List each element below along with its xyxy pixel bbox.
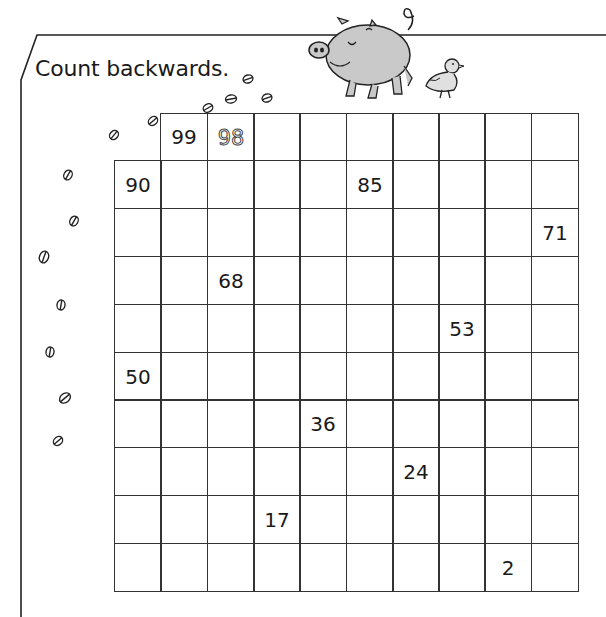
grid-cell[interactable]: [438, 160, 486, 209]
grid-cell[interactable]: [299, 495, 347, 544]
grid-cell[interactable]: [299, 113, 347, 161]
grid-cell[interactable]: [438, 495, 486, 544]
grid-cell[interactable]: [160, 304, 208, 353]
grid-cell[interactable]: [392, 399, 440, 448]
grid-cell[interactable]: 53: [438, 304, 486, 353]
grid-cell[interactable]: [160, 208, 208, 257]
grid-cell[interactable]: [207, 495, 255, 544]
grid-cell[interactable]: [438, 543, 486, 592]
grid-cell[interactable]: [484, 304, 532, 353]
grid-cell[interactable]: 17: [253, 495, 301, 544]
grid-cell[interactable]: 68: [207, 256, 255, 305]
grid-cell[interactable]: [253, 352, 301, 401]
grid-cell[interactable]: [392, 208, 440, 257]
grid-cell[interactable]: [392, 304, 440, 353]
grid-cell[interactable]: [114, 447, 162, 496]
grid-cell[interactable]: [299, 447, 347, 496]
grid-cell[interactable]: [160, 160, 208, 209]
grid-cell[interactable]: [160, 447, 208, 496]
grid-cell[interactable]: [346, 495, 394, 544]
grid-cell[interactable]: [392, 256, 440, 305]
grid-cell[interactable]: [114, 399, 162, 448]
grid-cell[interactable]: [531, 352, 579, 401]
grid-cell[interactable]: [392, 495, 440, 544]
grid-cell[interactable]: [531, 447, 579, 496]
grid-cell[interactable]: [114, 304, 162, 353]
grid-cell[interactable]: [392, 543, 440, 592]
grid-cell[interactable]: [299, 256, 347, 305]
grid-cell[interactable]: [299, 352, 347, 401]
grid-cell[interactable]: [484, 447, 532, 496]
grid-cell[interactable]: [160, 399, 208, 448]
grid-cell[interactable]: [114, 495, 162, 544]
grid-cell[interactable]: [114, 256, 162, 305]
grid-cell[interactable]: 50: [114, 352, 162, 401]
grid-cell[interactable]: 2: [484, 543, 532, 592]
grid-cell[interactable]: [160, 495, 208, 544]
grid-cell[interactable]: [438, 256, 486, 305]
grid-cell[interactable]: [253, 447, 301, 496]
grid-cell[interactable]: [392, 113, 440, 161]
grid-cell[interactable]: [484, 208, 532, 257]
grid-cell[interactable]: [346, 208, 394, 257]
grid-cell[interactable]: [253, 113, 301, 161]
given-number: 36: [310, 412, 335, 436]
grid-cell[interactable]: [160, 543, 208, 592]
grid-cell[interactable]: [253, 256, 301, 305]
grid-cell[interactable]: [160, 256, 208, 305]
grid-cell[interactable]: 90: [114, 160, 162, 209]
grid-cell[interactable]: [531, 304, 579, 353]
grid-cell[interactable]: [392, 352, 440, 401]
grid-cell[interactable]: [484, 160, 532, 209]
grid-cell[interactable]: [346, 447, 394, 496]
grid-cell[interactable]: [299, 208, 347, 257]
grid-cell[interactable]: [253, 160, 301, 209]
grid-cell[interactable]: [207, 352, 255, 401]
grid-cell[interactable]: [114, 208, 162, 257]
grid-cell[interactable]: [438, 113, 486, 161]
grid-cell[interactable]: [160, 352, 208, 401]
grid-cell[interactable]: [346, 352, 394, 401]
grid-cell[interactable]: [484, 495, 532, 544]
grid-cell[interactable]: [253, 399, 301, 448]
grid-cell[interactable]: [484, 399, 532, 448]
grid-cell[interactable]: [346, 543, 394, 592]
grid-cell[interactable]: [531, 160, 579, 209]
grid-cell[interactable]: [438, 447, 486, 496]
grid-cell[interactable]: [207, 160, 255, 209]
grid-cell[interactable]: 71: [531, 208, 579, 257]
grid-cell[interactable]: 98: [207, 113, 255, 161]
grid-cell[interactable]: [299, 160, 347, 209]
grid-cell[interactable]: [531, 495, 579, 544]
grid-cell[interactable]: [346, 113, 394, 161]
grid-cell[interactable]: 99: [160, 113, 208, 161]
grid-cell[interactable]: [207, 304, 255, 353]
grid-cell[interactable]: [207, 447, 255, 496]
grid-cell[interactable]: [253, 543, 301, 592]
grid-cell[interactable]: [346, 304, 394, 353]
grid-cell[interactable]: [299, 304, 347, 353]
grid-cell[interactable]: [484, 256, 532, 305]
grid-cell[interactable]: [299, 543, 347, 592]
grid-cell[interactable]: 24: [392, 447, 440, 496]
grid-cell[interactable]: [346, 399, 394, 448]
grid-cell[interactable]: [484, 352, 532, 401]
grid-cell[interactable]: [484, 113, 532, 161]
grid-cell[interactable]: [114, 543, 162, 592]
grid-cell[interactable]: [531, 543, 579, 592]
grid-cell[interactable]: 36: [299, 399, 347, 448]
grid-cell[interactable]: 85: [346, 160, 394, 209]
grid-cell[interactable]: [253, 208, 301, 257]
grid-cell[interactable]: [531, 256, 579, 305]
grid-cell[interactable]: [253, 304, 301, 353]
grid-cell[interactable]: [392, 160, 440, 209]
grid-cell[interactable]: [207, 399, 255, 448]
grid-cell[interactable]: [531, 113, 579, 161]
grid-cell[interactable]: [438, 208, 486, 257]
grid-cell[interactable]: [346, 256, 394, 305]
grid-cell[interactable]: [207, 543, 255, 592]
grid-cell[interactable]: [438, 352, 486, 401]
grid-cell[interactable]: [531, 399, 579, 448]
grid-cell[interactable]: [207, 208, 255, 257]
grid-cell[interactable]: [438, 399, 486, 448]
